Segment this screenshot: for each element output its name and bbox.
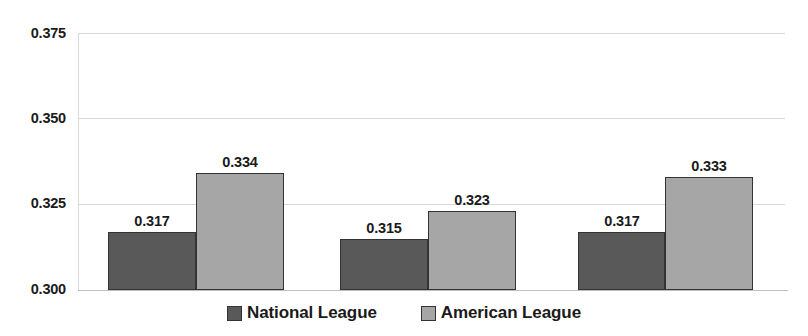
legend-swatch-icon-american-league — [421, 306, 436, 321]
y-axis-tick-label-0325: 0.325 — [6, 195, 66, 211]
y-axis-tick-label-0300: 0.300 — [6, 281, 66, 297]
bar-chart: 0.375 0.350 0.325 0.300 0.317 0.334 0.31… — [0, 0, 808, 336]
bar-national-1[interactable] — [340, 239, 428, 290]
gridline-0350 — [78, 118, 785, 119]
y-axis-tick-label-0375: 0.375 — [6, 25, 66, 41]
legend-entry-national-league[interactable]: National League — [227, 303, 377, 323]
bar-label-american-1: 0.323 — [408, 192, 536, 208]
bar-american-2[interactable] — [665, 177, 753, 290]
bar-label-american-2: 0.333 — [645, 158, 773, 174]
bar-label-american-0: 0.334 — [176, 154, 304, 170]
y-axis-line — [78, 33, 79, 290]
bar-national-0[interactable] — [108, 232, 196, 290]
gridline-0375 — [78, 33, 785, 34]
chart-legend: National League American League — [0, 303, 808, 323]
legend-entry-american-league[interactable]: American League — [421, 303, 581, 323]
plot-area: 0.317 0.334 0.315 0.323 0.317 0.333 — [78, 33, 785, 290]
bar-american-0[interactable] — [196, 173, 284, 290]
legend-label-american-league: American League — [441, 303, 581, 323]
bar-american-1[interactable] — [428, 211, 516, 290]
legend-label-national-league: National League — [247, 303, 377, 323]
x-axis-line — [78, 290, 788, 291]
bar-national-2[interactable] — [578, 232, 665, 290]
legend-swatch-icon-national-league — [227, 306, 242, 321]
y-axis-tick-label-0350: 0.350 — [6, 110, 66, 126]
